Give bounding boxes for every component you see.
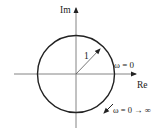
nyquist-diagram: Im Re 1 ω = 0 ω = 0 → ∞ (0, 0, 163, 134)
direction-label: ω = 0 → ∞ (113, 105, 151, 115)
direction-arrow (104, 104, 113, 113)
start-point-label: ω = 0 (114, 60, 134, 70)
imag-axis-label: Im (60, 5, 71, 15)
real-axis-label: Re (137, 80, 148, 90)
radius-label: 1 (84, 51, 89, 61)
